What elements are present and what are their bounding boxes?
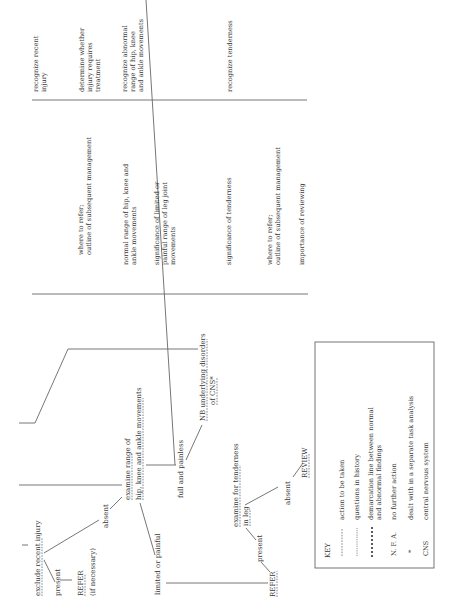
skill-item-3-line1: recognize abnormal xyxy=(121,25,129,92)
skill-item-3-line3: and ankle movements xyxy=(137,18,145,92)
examine-tenderness-text-line1: examine for tenderness xyxy=(232,443,240,527)
key-symbol-nfa: N. F. A. xyxy=(390,532,398,556)
skill-item-2-line2: injury requires xyxy=(86,42,94,92)
nb-cns-text-line1: NB underlying disorders xyxy=(199,333,207,421)
key-label-questions: questions in history xyxy=(353,454,361,520)
knowledge-column: where to refer; outline of subsequent ma… xyxy=(77,137,306,265)
knowledge-item-2-line1: normal range of hip, knee and xyxy=(122,163,130,265)
key-symbol-cns: CNS xyxy=(422,540,430,556)
skill-item-4-line1: recognize tenderness xyxy=(226,20,234,92)
knowledge-item-5-line1: where to refer; xyxy=(266,215,274,265)
nb-cns-text-line2: of CNS* xyxy=(209,376,217,405)
refer-note: (if necessary) xyxy=(89,548,97,596)
key-title: KEY xyxy=(324,543,332,558)
flowchart-connectors xyxy=(19,0,303,583)
absent-label-1: absent xyxy=(102,504,110,528)
key-label-demarcation-line2: and abnormal findings xyxy=(375,444,383,520)
limited-or-painful-label: limited or painful xyxy=(154,533,162,595)
rotated-document-page: exclude recent injury present REFER (if … xyxy=(0,0,457,614)
knowledge-item-4-line1: significance of tenderness xyxy=(225,177,233,265)
examine-range-text-line2: hip, knee and ankle movements xyxy=(135,387,143,500)
skill-item-1-line1: recognize recent xyxy=(32,35,40,92)
skill-item-2-line3: treatment xyxy=(94,58,102,92)
knowledge-item-3-line1: significance of limited or xyxy=(153,181,161,265)
present-label-2: present xyxy=(256,535,264,562)
refer-action-2: REFER xyxy=(269,571,277,597)
key-label-demarcation-line1: demarcation line between normal xyxy=(367,407,375,520)
knowledge-item-1-line1: where to refer; xyxy=(77,205,85,255)
review-action: REVIEW xyxy=(301,447,309,478)
examine-tenderness-text-line2: in leg xyxy=(242,506,250,526)
knowledge-item-2-line2: ankle movements xyxy=(130,206,138,265)
examine-range-text-line1: examine range of xyxy=(124,437,132,500)
key-legend: KEY action to be taken questions in hist… xyxy=(315,342,434,568)
skill-item-2-line1: determine whether xyxy=(78,27,86,92)
present-label-1: present xyxy=(54,569,62,596)
knowledge-item-5-line2: outline of subsequent management xyxy=(274,147,282,265)
skill-item-1-line2: injury xyxy=(40,72,48,92)
knowledge-item-1-line2: outline of subsequent management xyxy=(85,137,93,255)
refer-action-1: REFER xyxy=(77,570,85,596)
key-label-cns: central nervous system xyxy=(422,441,430,520)
skill-item-3-line2: range of hip, knee xyxy=(129,31,137,92)
knowledge-item-3-line2: painful range of leg joint xyxy=(161,182,169,265)
knowledge-item-6-line1: importance of reviewing xyxy=(298,182,306,265)
skills-column: recognize recent injury determine whethe… xyxy=(32,18,234,92)
exclude-recent-injury-text: exclude recent injury xyxy=(34,521,42,596)
key-label-nfa: no further action xyxy=(390,462,398,520)
full-and-painless-label: full and painless xyxy=(177,439,185,498)
key-label-separate-task: dealt with in a separate task analysis xyxy=(407,395,415,520)
key-label-action: action to be taken xyxy=(338,459,346,520)
knowledge-item-3-line3: movements xyxy=(169,226,177,265)
absent-label-2: absent xyxy=(284,481,292,505)
